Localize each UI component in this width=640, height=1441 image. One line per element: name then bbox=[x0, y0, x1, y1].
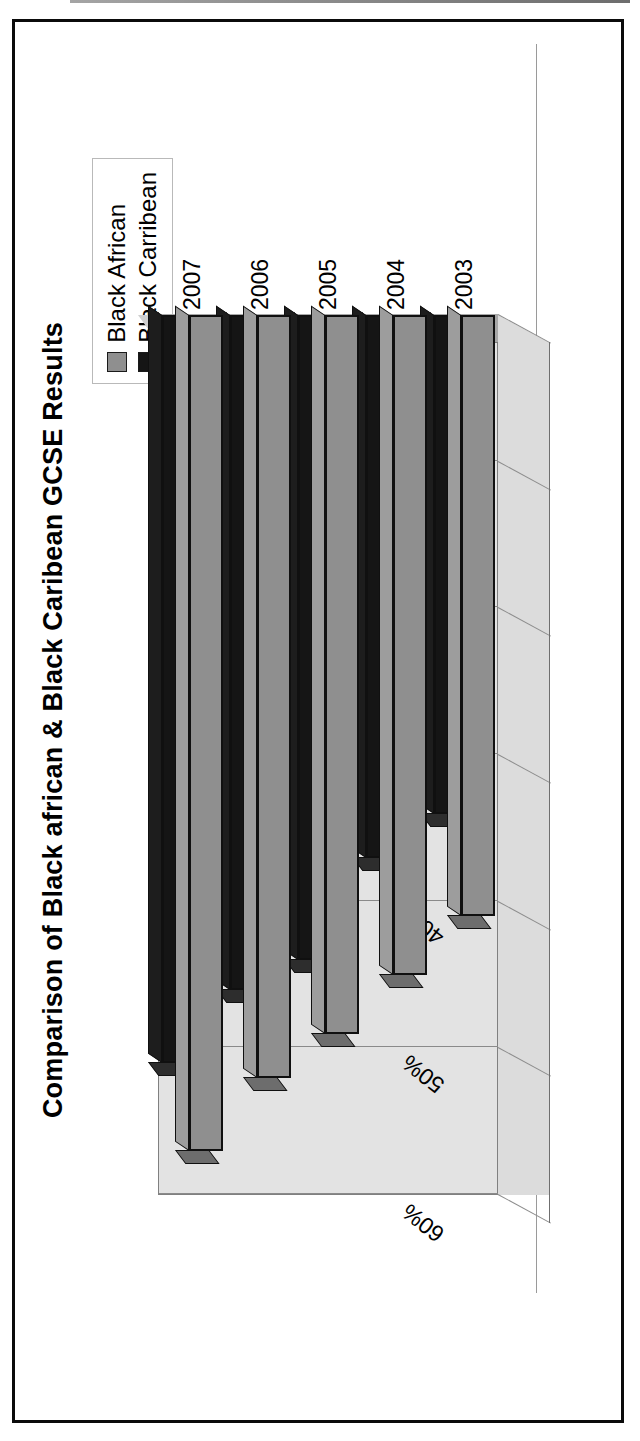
bar-top-face bbox=[148, 306, 162, 1063]
bar-top-face bbox=[243, 306, 257, 1078]
legend-item-black-african: Black African bbox=[101, 172, 132, 372]
scanned-page: Comparison of Black african & Black Cari… bbox=[0, 0, 640, 1441]
bar-2004-black-african bbox=[393, 315, 427, 975]
bar-2005-black-african bbox=[325, 315, 359, 1034]
scan-edge-artifact bbox=[70, 0, 630, 3]
bar-2007-black-african bbox=[189, 315, 223, 1151]
rotated-chart-canvas: Comparison of Black african & Black Cari… bbox=[20, 30, 620, 1410]
category-axis-labels: 20032004200520062007 bbox=[158, 230, 550, 310]
bar-top-face bbox=[379, 306, 393, 975]
chart-title: Comparison of Black african & Black Cari… bbox=[38, 30, 69, 1410]
floor-gridline-60 bbox=[498, 1194, 551, 1224]
category-tick-2005: 2005 bbox=[315, 259, 342, 310]
category-tick-2007: 2007 bbox=[179, 259, 206, 310]
bar-front-face bbox=[393, 315, 427, 975]
plot-floor-base-edge bbox=[549, 342, 550, 1223]
legend-label-black-african: Black African bbox=[103, 204, 131, 343]
category-tick-2006: 2006 bbox=[247, 259, 274, 310]
bar-2003-black-african bbox=[461, 315, 495, 916]
bar-2006-black-african bbox=[257, 315, 291, 1078]
bar-top-face bbox=[175, 306, 189, 1151]
bar-top-face bbox=[447, 306, 461, 917]
bar-front-face bbox=[325, 315, 359, 1034]
bar-front-face bbox=[189, 315, 223, 1151]
bar-top-face bbox=[311, 306, 325, 1034]
bar-front-face bbox=[257, 315, 291, 1078]
category-tick-2003: 2003 bbox=[451, 259, 478, 310]
value-tick-60%: 60% bbox=[397, 1198, 450, 1248]
category-tick-2004: 2004 bbox=[383, 259, 410, 310]
bar-front-face bbox=[461, 315, 495, 916]
legend-swatch-icon-black-african bbox=[107, 352, 127, 372]
